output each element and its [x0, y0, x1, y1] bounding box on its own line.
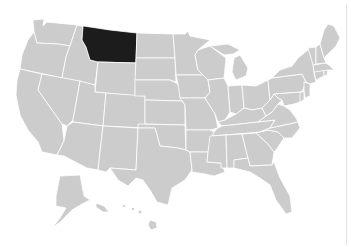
state-kansas[interactable]	[145, 100, 185, 125]
us-map	[0, 0, 351, 247]
state-rhode-island[interactable]	[324, 70, 328, 76]
state-south-dakota[interactable]	[135, 58, 176, 82]
state-maine[interactable]	[320, 24, 340, 58]
state-wyoming[interactable]	[95, 62, 136, 96]
state-arizona[interactable]	[57, 122, 103, 170]
state-delaware[interactable]	[300, 92, 304, 102]
divider-line	[346, 5, 347, 245]
state-hawaii[interactable]	[123, 205, 158, 231]
state-north-dakota[interactable]	[136, 33, 175, 58]
state-new-mexico[interactable]	[98, 126, 138, 172]
state-alaska[interactable]	[52, 175, 90, 228]
state-washington[interactable]	[33, 19, 77, 46]
states-layer	[16, 19, 340, 230]
alaska-aleutian-islands	[96, 203, 109, 212]
state-florida[interactable]	[234, 158, 292, 214]
state-colorado[interactable]	[103, 93, 145, 128]
state-iowa[interactable]	[176, 75, 210, 98]
state-new-jersey[interactable]	[304, 82, 310, 98]
